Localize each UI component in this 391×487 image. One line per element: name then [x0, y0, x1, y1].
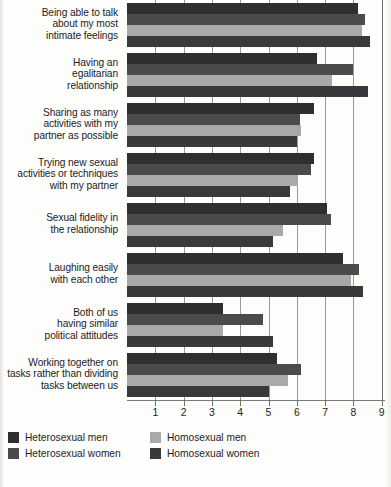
category-label: Laughing easilywith each other — [0, 262, 118, 285]
x-tick-label-1: 1 — [145, 407, 165, 418]
legend-label: Homosexual men — [167, 432, 246, 443]
category-label-line: relationship — [0, 80, 118, 92]
plot-area: Being able to talkabout my mostintimate … — [0, 0, 391, 400]
x-tick-1 — [155, 400, 156, 406]
legend-label: Homosexual women — [167, 448, 259, 459]
category-label-line: Trying new sexual — [0, 157, 118, 169]
gridline-9 — [382, 0, 383, 400]
category-label: Sharing as manyactivities with mypartner… — [0, 107, 118, 142]
x-tick-label-5: 5 — [259, 407, 279, 418]
x-tick-label-2: 2 — [174, 407, 194, 418]
category-label-line: activities with my — [0, 118, 118, 130]
bar — [127, 64, 353, 75]
category-label-line: having similar — [0, 318, 118, 330]
category-label: Having anegalitarianrelationship — [0, 57, 118, 92]
legend-swatch-icon — [8, 432, 19, 443]
bar — [127, 325, 223, 336]
x-tick-2 — [184, 400, 185, 406]
chart-legend: Heterosexual menHeterosexual womenHomose… — [0, 432, 391, 477]
x-tick-5 — [269, 400, 270, 406]
bar-chart: Being able to talkabout my mostintimate … — [0, 0, 391, 487]
x-tick-label-4: 4 — [230, 407, 250, 418]
x-tick-4 — [240, 400, 241, 406]
category-label: Working together ontasks rather than div… — [0, 357, 118, 392]
bar — [127, 275, 351, 286]
category-label: Sexual fidelity inthe relationship — [0, 212, 118, 235]
legend-label: Heterosexual men — [25, 432, 108, 443]
category-label-line: Laughing easily — [0, 262, 118, 274]
bar — [127, 336, 273, 347]
bar — [127, 114, 300, 125]
bar — [127, 203, 327, 214]
bar — [127, 3, 358, 14]
bar — [127, 75, 332, 86]
x-axis-line — [127, 400, 385, 401]
bar — [127, 103, 314, 114]
category-axis-labels: Being able to talkabout my mostintimate … — [0, 0, 121, 400]
category-label-line: Having an — [0, 57, 118, 69]
bar — [127, 153, 314, 164]
x-tick-label-3: 3 — [202, 407, 222, 418]
gridline-7 — [325, 0, 326, 400]
bar — [127, 364, 301, 375]
bar — [127, 353, 277, 364]
bar — [127, 14, 365, 25]
x-tick-label-9: 9 — [372, 407, 391, 418]
x-tick-3 — [212, 400, 213, 406]
category-label-line: activities or techniques — [0, 168, 118, 180]
x-tick-6 — [297, 400, 298, 406]
legend-swatch-icon — [150, 448, 161, 459]
category-label-line: partner as possible — [0, 130, 118, 142]
bar — [127, 303, 223, 314]
x-tick-label-6: 6 — [287, 407, 307, 418]
category-label: Being able to talkabout my mostintimate … — [0, 7, 118, 42]
category-label-line: egalitarian — [0, 68, 118, 80]
x-tick-9 — [382, 400, 383, 406]
category-label-line: political attitudes — [0, 330, 118, 342]
x-tick-label-7: 7 — [315, 407, 335, 418]
bar — [127, 253, 343, 264]
category-label-line: tasks rather than dividing — [0, 368, 118, 380]
category-label-line: Sexual fidelity in — [0, 212, 118, 224]
bar — [127, 236, 273, 247]
category-label-line: with my partner — [0, 180, 118, 192]
bar — [127, 25, 362, 36]
bar — [127, 375, 288, 386]
bar — [127, 36, 370, 47]
category-label-line: intimate feelings — [0, 30, 118, 42]
x-tick-label-8: 8 — [343, 407, 363, 418]
gridline-8 — [353, 0, 354, 400]
legend-swatch-icon — [150, 432, 161, 443]
bar — [127, 225, 283, 236]
category-label: Trying new sexualactivities or technique… — [0, 157, 118, 192]
x-tick-7 — [325, 400, 326, 406]
category-label: Both of ushaving similarpolitical attitu… — [0, 307, 118, 342]
category-label-line: about my most — [0, 18, 118, 30]
category-label-line: Both of us — [0, 307, 118, 319]
bar — [127, 186, 290, 197]
bar — [127, 286, 363, 297]
category-label-line: the relationship — [0, 224, 118, 236]
bar — [127, 386, 269, 397]
bar — [127, 264, 359, 275]
legend-item: Homosexual women — [150, 448, 259, 459]
category-label-line: Working together on — [0, 357, 118, 369]
bar — [127, 53, 317, 64]
category-label-line: Being able to talk — [0, 7, 118, 19]
bars-container — [127, 0, 391, 400]
legend-swatch-icon — [8, 448, 19, 459]
category-label-line: with each other — [0, 274, 118, 286]
category-label-line: tasks between us — [0, 380, 118, 392]
bar — [127, 314, 263, 325]
bar — [127, 214, 331, 225]
legend-label: Heterosexual women — [25, 448, 121, 459]
bar — [127, 175, 298, 186]
legend-item: Homosexual men — [150, 432, 246, 443]
bar — [127, 136, 297, 147]
x-tick-8 — [353, 400, 354, 406]
legend-item: Heterosexual women — [8, 448, 121, 459]
bar — [127, 164, 311, 175]
category-label-line: Sharing as many — [0, 107, 118, 119]
bar — [127, 125, 301, 136]
legend-item: Heterosexual men — [8, 432, 108, 443]
